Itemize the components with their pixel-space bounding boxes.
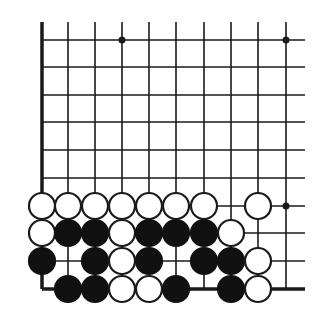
white-stone [109, 220, 135, 246]
black-stone [191, 220, 217, 246]
black-stone [163, 276, 189, 302]
black-stone [82, 220, 108, 246]
black-stone [191, 248, 217, 274]
white-stone [191, 193, 217, 219]
black-stone [29, 248, 55, 274]
black-stone [136, 248, 162, 274]
white-stone [109, 248, 135, 274]
black-stone [55, 276, 81, 302]
star-point-icon [119, 37, 126, 44]
black-stone [163, 220, 189, 246]
white-stone [109, 276, 135, 302]
white-stone [82, 193, 108, 219]
white-stone [29, 220, 55, 246]
white-stone [29, 193, 55, 219]
white-stone [136, 193, 162, 219]
white-stone [245, 248, 271, 274]
white-stone [218, 220, 244, 246]
star-point-icon [283, 37, 290, 44]
white-stone [163, 193, 189, 219]
star-point-icon [283, 203, 290, 210]
black-stone [218, 248, 244, 274]
black-stone [82, 248, 108, 274]
white-stone [136, 276, 162, 302]
white-stone [245, 193, 271, 219]
go-board-diagram [0, 0, 328, 335]
white-stone [55, 193, 81, 219]
black-stone [136, 220, 162, 246]
white-stone [245, 276, 271, 302]
black-stone [55, 220, 81, 246]
white-stone [109, 193, 135, 219]
black-stone [218, 276, 244, 302]
black-stone [82, 276, 108, 302]
